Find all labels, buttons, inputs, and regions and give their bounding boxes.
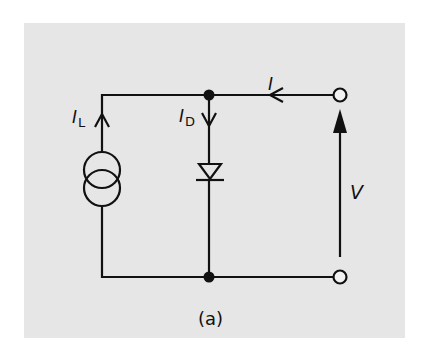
figure-caption: (a) (198, 310, 223, 328)
junction-top-icon (204, 90, 215, 101)
terminal-top-icon (334, 89, 347, 102)
terminal-current-label: I (268, 76, 273, 93)
source-current-symbol: I (72, 107, 77, 127)
source-current-subscript: L (78, 115, 85, 130)
source-current-label: IL (72, 109, 85, 126)
diode-current-label: ID (179, 108, 195, 125)
diode-current-symbol: I (179, 106, 184, 126)
junction-bottom-icon (204, 272, 215, 283)
circuit-schematic (0, 0, 425, 355)
diode-icon (199, 164, 221, 179)
wire-left-bottom (102, 206, 333, 277)
voltage-label: V (350, 183, 363, 202)
voltage-arrow-head-icon (333, 109, 347, 133)
wire-left-top (102, 95, 333, 152)
diode-current-subscript: D (185, 114, 195, 129)
terminal-bottom-icon (334, 271, 347, 284)
